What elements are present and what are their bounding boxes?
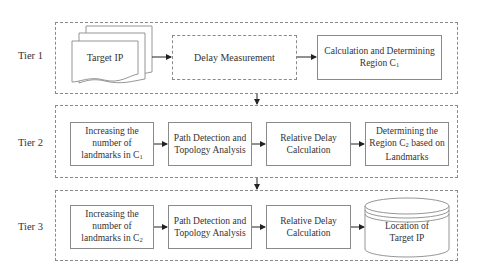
node-determine-region-c2: Determining the Region C2 based on Landm… <box>365 122 449 166</box>
node-relative-delay-tier3: Relative Delay Calculation <box>266 205 351 249</box>
node-location-target-ip: Location of Target IP <box>365 220 449 244</box>
node-path-detection-tier2: Path Detection and Topology Analysis <box>168 122 252 166</box>
node-increase-landmarks-c2: Increasing the number of landmarks in C2 <box>70 205 154 249</box>
node-path-detection-tier3: Path Detection and Topology Analysis <box>168 205 252 249</box>
node-calc-region-c1: Calculation and Determining Region C1 <box>317 35 442 80</box>
node-delay-measurement-label: Delay Measurement <box>194 52 275 64</box>
tier-3-label: Tier 3 <box>18 221 43 232</box>
tier-2-label: Tier 2 <box>18 137 43 148</box>
node-increase-landmarks-c1: Increasing the number of landmarks in C1 <box>70 122 154 166</box>
node-delay-measurement: Delay Measurement <box>172 35 297 80</box>
node-relative-delay-tier2: Relative Delay Calculation <box>266 122 351 166</box>
node-target-ip-label: Target IP <box>87 52 124 63</box>
tier-1-label: Tier 1 <box>18 50 43 61</box>
node-target-ip: Target IP <box>72 52 138 63</box>
